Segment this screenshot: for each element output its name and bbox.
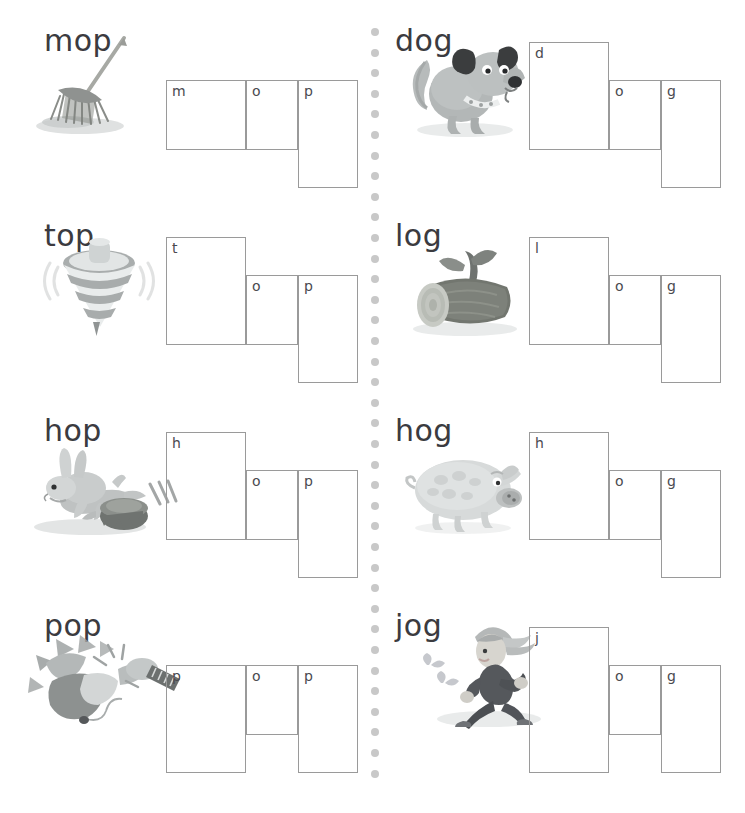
- letter-box-hint: o: [615, 278, 624, 295]
- letter-box-hint: o: [615, 668, 624, 685]
- word-exercise: hog hog: [373, 390, 745, 585]
- letter-box-hint: m: [172, 83, 186, 100]
- worksheet-page: mop moptop tophop hoppop pop dog doglog …: [0, 0, 745, 813]
- hopping-rabbit-illustration: [28, 432, 178, 537]
- letter-box[interactable]: j: [529, 627, 609, 773]
- letter-box-hint: o: [252, 668, 261, 685]
- letter-box-hint: o: [252, 278, 261, 295]
- spinning-top-illustration: [40, 227, 160, 342]
- word-exercise: top top: [0, 195, 372, 390]
- letter-box-hint: g: [667, 278, 676, 295]
- letter-box[interactable]: h: [166, 432, 246, 540]
- letter-box[interactable]: p: [298, 80, 358, 188]
- letter-box[interactable]: o: [246, 470, 298, 540]
- letter-box-hint: o: [252, 83, 261, 100]
- left-column: mop moptop tophop hoppop pop: [0, 0, 372, 813]
- letter-box[interactable]: m: [166, 80, 246, 150]
- letter-box-hint: h: [172, 435, 181, 452]
- word-exercise: dog dog: [373, 0, 745, 195]
- word-exercise: log log: [373, 195, 745, 390]
- word-exercise: hop hop: [0, 390, 372, 585]
- letter-box[interactable]: g: [661, 665, 721, 773]
- letter-box[interactable]: o: [246, 80, 298, 150]
- right-column: dog doglog loghog hogjog jog: [373, 0, 745, 813]
- letter-box[interactable]: o: [609, 80, 661, 150]
- letter-box-hint: o: [615, 83, 624, 100]
- letter-box-hint: p: [304, 668, 313, 685]
- letter-box[interactable]: l: [529, 237, 609, 345]
- letter-box-hint: g: [667, 473, 676, 490]
- letter-box-hint: h: [535, 435, 544, 452]
- letter-box-hint: l: [535, 240, 539, 257]
- letter-box-hint: g: [667, 83, 676, 100]
- word-exercise: pop pop: [0, 585, 372, 780]
- letter-box[interactable]: o: [609, 665, 661, 735]
- letter-box[interactable]: p: [298, 275, 358, 383]
- word-exercise: mop mop: [0, 0, 372, 195]
- letter-box[interactable]: h: [529, 432, 609, 540]
- letter-box[interactable]: o: [246, 275, 298, 345]
- letter-box[interactable]: p: [298, 665, 358, 773]
- letter-box-hint: p: [172, 668, 181, 685]
- letter-box[interactable]: t: [166, 237, 246, 345]
- dog-illustration: [401, 26, 531, 141]
- mop-illustration: [28, 34, 148, 139]
- letter-box[interactable]: p: [298, 470, 358, 578]
- letter-box-hint: p: [304, 473, 313, 490]
- letter-box[interactable]: o: [609, 275, 661, 345]
- letter-box-hint: j: [535, 630, 539, 647]
- popping-balloon-illustration: [22, 625, 182, 740]
- letter-box-hint: d: [535, 45, 544, 62]
- letter-box[interactable]: g: [661, 275, 721, 383]
- letter-box-hint: t: [172, 240, 178, 257]
- hog-illustration: [397, 432, 537, 537]
- letter-box-hint: g: [667, 668, 676, 685]
- letter-box-hint: p: [304, 278, 313, 295]
- letter-box[interactable]: g: [661, 470, 721, 578]
- word-exercise: jog jog: [373, 585, 745, 780]
- letter-box-hint: p: [304, 83, 313, 100]
- letter-box[interactable]: g: [661, 80, 721, 188]
- letter-box[interactable]: p: [166, 665, 246, 773]
- log-illustration: [395, 233, 535, 338]
- letter-box[interactable]: o: [609, 470, 661, 540]
- letter-box[interactable]: d: [529, 42, 609, 150]
- letter-box-hint: o: [615, 473, 624, 490]
- letter-box[interactable]: o: [246, 665, 298, 735]
- letter-box-hint: o: [252, 473, 261, 490]
